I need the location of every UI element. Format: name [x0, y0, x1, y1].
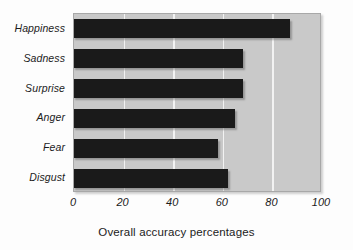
y-tick-label-surprise: Surprise: [0, 82, 65, 93]
y-axis-category-labels: HappinessSadnessSurpriseAngerFearDisgust: [0, 13, 69, 192]
y-tick-label-sadness: Sadness: [0, 52, 65, 63]
bar-surprise: [73, 79, 243, 98]
bar-chart-figure: HappinessSadnessSurpriseAngerFearDisgust…: [0, 0, 353, 250]
y-tick-label-happiness: Happiness: [0, 22, 65, 33]
x-axis-title: Overall accuracy percentages: [0, 226, 353, 238]
x-tick-label-20: 20: [116, 196, 128, 208]
x-tick-label-0: 0: [70, 196, 76, 208]
x-axis-tick-labels: 020406080100: [73, 196, 321, 212]
bar-happiness: [73, 19, 290, 38]
x-tick-label-40: 40: [166, 196, 178, 208]
x-tick-label-80: 80: [265, 196, 277, 208]
x-tick-label-100: 100: [312, 196, 330, 208]
y-tick-label-fear: Fear: [0, 142, 65, 153]
x-tick-label-60: 60: [216, 196, 228, 208]
bar-anger: [73, 109, 235, 128]
gridline: [223, 14, 224, 191]
gridline: [272, 14, 273, 191]
gridline: [124, 14, 125, 191]
y-tick-label-anger: Anger: [0, 112, 65, 123]
bar-disgust: [73, 169, 228, 188]
gridline: [173, 14, 174, 191]
y-tick-label-disgust: Disgust: [0, 172, 65, 183]
bar-sadness: [73, 49, 243, 68]
bar-fear: [73, 139, 218, 158]
plot-area: [73, 13, 321, 192]
